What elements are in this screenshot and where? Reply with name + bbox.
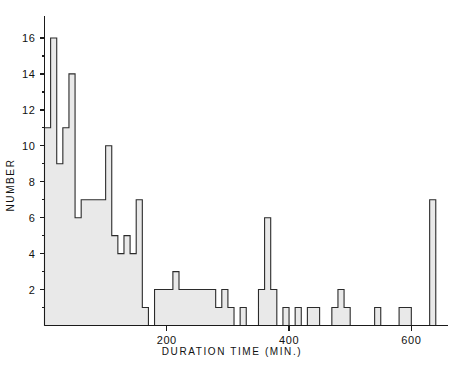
- y-axis-tick-labels: 246810121416: [22, 32, 35, 296]
- y-tick-label: 6: [29, 212, 36, 224]
- y-tick-label: 16: [22, 32, 35, 44]
- histogram-svg: 246810121416 200400600 NUMBER DURATION T…: [0, 0, 460, 369]
- y-tick-label: 4: [29, 248, 36, 260]
- y-tick-label: 8: [29, 176, 36, 188]
- y-axis-title: NUMBER: [5, 159, 16, 212]
- x-tick-label: 600: [401, 334, 421, 346]
- plot-area: [45, 38, 449, 326]
- y-axis: 246810121416: [22, 16, 44, 325]
- y-tick-label: 10: [22, 140, 35, 152]
- histogram-bars: [45, 38, 449, 326]
- x-tick-label: 200: [157, 334, 177, 346]
- x-axis-tick-labels: 200400600: [157, 334, 422, 346]
- y-tick-label: 14: [22, 68, 35, 80]
- x-tick-label: 400: [279, 334, 299, 346]
- x-axis: 200400600: [45, 326, 449, 346]
- x-axis-title: DURATION TIME (MIN.): [162, 346, 303, 357]
- y-tick-label: 2: [29, 284, 36, 296]
- histogram-figure: 246810121416 200400600 NUMBER DURATION T…: [0, 0, 460, 369]
- y-tick-label: 12: [22, 104, 35, 116]
